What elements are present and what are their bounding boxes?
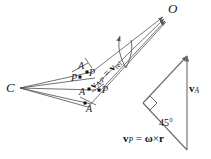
point-label-A-lower: A [86,104,92,114]
label-driven-velocity: vP = ω×r [123,133,164,145]
dot-P-left [79,76,82,79]
label-absolute-velocity: vA [189,83,199,95]
point-label-A-middle: A [79,87,85,97]
equals-P: = [136,132,142,144]
v-sub-A: A [195,86,200,95]
rays-to-O [88,17,166,107]
dot-A-middle [88,88,91,91]
right-angle-marker [143,96,157,110]
angle-label-45: 45° [159,118,173,128]
point-label-O: O [168,2,177,15]
figure-canvas: O C A P P A P A vA/P = vrel vA vP = ω×r … [0,0,211,159]
point-label-A-upper: A [78,61,84,71]
point-label-P-right: P [102,85,108,95]
v-sub-P: P [129,136,134,145]
point-label-P-upper-left: P [71,73,77,83]
omega-glyph: ω [145,132,153,144]
point-label-C: C [6,81,15,94]
r-glyph: r [159,132,164,144]
